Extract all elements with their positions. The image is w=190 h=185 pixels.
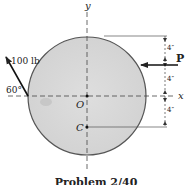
- y-axis-label: y: [84, 0, 91, 11]
- shading: [40, 98, 52, 106]
- origin-point: [85, 94, 88, 97]
- centroid-point: [85, 125, 88, 128]
- force-100lb-label: 100 lb: [11, 56, 40, 66]
- x-axis-label: x: [178, 90, 184, 101]
- dimension-label-3: 4″: [167, 106, 174, 114]
- angle-label: 60°: [6, 85, 22, 95]
- force-p-label: P: [176, 52, 184, 65]
- dimension-label-2: 4″: [167, 75, 174, 83]
- disk-diagram: y x O C 4″ 4″ 4″ P 100 lb 60° Problem 2/…: [0, 0, 190, 185]
- origin-label: O: [76, 99, 84, 110]
- caption: Problem 2/40: [55, 176, 138, 185]
- dimension-label-1: 4″: [167, 44, 174, 52]
- centroid-label: C: [76, 122, 84, 133]
